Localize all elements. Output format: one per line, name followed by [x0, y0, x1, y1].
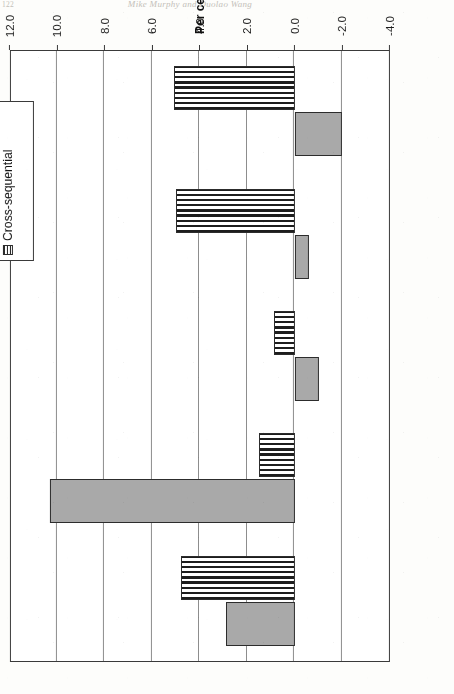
axis-tick-label: 12.0	[4, 3, 16, 49]
bar-cross-sectional-married	[295, 357, 319, 401]
legend-item: Cross-sequential	[1, 109, 15, 255]
axis-tick-label: 10.0	[52, 3, 64, 49]
value-axis-title: Per cent	[193, 0, 207, 34]
bar-cross-sequential-cohabiting	[259, 433, 295, 477]
axis-tick-label: 2.0	[242, 3, 254, 49]
figure-chart: 12.010.08.06.04.02.00.0-2.0-4.0Per centS…	[0, 8, 408, 688]
bar-cross-sequential-widowed	[174, 66, 295, 110]
axis-tick-label: -4.0	[384, 3, 396, 49]
bar-cross-sectional-cohabiting	[50, 479, 295, 523]
legend-item-label: Cross-sequential	[1, 149, 15, 240]
axis-tick-label: 8.0	[99, 3, 111, 49]
axis-tick-label: -2.0	[337, 3, 349, 49]
gridline	[104, 51, 105, 661]
chart-legend: Cross-sectionalCross-sequential	[0, 101, 34, 261]
legend-swatch-striped-icon	[3, 245, 13, 255]
gridline	[151, 51, 152, 661]
bar-cross-sectional-widowed	[295, 112, 343, 156]
axis-tick-label: 0.0	[289, 3, 301, 49]
bar-cross-sectional-single	[226, 602, 295, 646]
bar-cross-sequential-married	[274, 311, 295, 355]
axis-tick-label: 6.0	[147, 3, 159, 49]
bar-cross-sequential-divorced-separated	[176, 189, 295, 233]
bar-cross-sectional-divorced-separated	[295, 235, 309, 279]
gridline	[56, 51, 57, 661]
bar-cross-sequential-single	[181, 556, 295, 600]
